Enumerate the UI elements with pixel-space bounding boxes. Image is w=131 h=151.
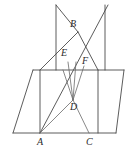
point-label-e: E: [61, 48, 67, 58]
point-label-f: F: [82, 56, 88, 66]
segment-ray-D-to-E: [68, 62, 73, 100]
line-segment-group: [13, 5, 124, 133]
point-label-a: A: [37, 137, 43, 147]
segment-ray-D-to-A-lower: [40, 100, 73, 133]
figure-canvas: [0, 0, 131, 151]
segment-base-left-edge: [13, 70, 33, 133]
point-label-d: D: [70, 102, 77, 112]
geometry-figure: ABCDEF: [0, 0, 131, 151]
segment-apex-to-lower-left: [40, 32, 78, 70]
point-label-c: C: [86, 137, 93, 147]
point-label-b: B: [70, 19, 76, 29]
segment-base-right-edge: [116, 70, 124, 133]
